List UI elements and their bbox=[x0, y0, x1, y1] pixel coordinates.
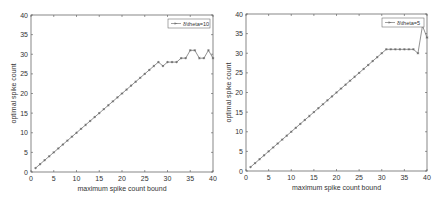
data-point bbox=[317, 107, 319, 109]
data-point bbox=[148, 69, 150, 71]
data-point bbox=[276, 142, 278, 144]
data-point bbox=[34, 167, 36, 169]
x-tick-label: 40 bbox=[209, 175, 217, 182]
data-point bbox=[254, 162, 256, 164]
data-point bbox=[212, 57, 214, 59]
data-point bbox=[385, 48, 387, 50]
x-axis-label: maximum spike count bound bbox=[292, 184, 381, 192]
data-point bbox=[326, 99, 328, 101]
data-point bbox=[272, 146, 274, 148]
data-point bbox=[290, 131, 292, 133]
data-point bbox=[189, 49, 191, 51]
data-point bbox=[362, 68, 364, 70]
data-point bbox=[84, 124, 86, 126]
data-point bbox=[358, 72, 360, 74]
data-point bbox=[134, 81, 136, 83]
y-tick-label: 30 bbox=[235, 50, 243, 57]
x-tick-label: 0 bbox=[244, 174, 248, 181]
data-point bbox=[157, 61, 159, 63]
y-tick-label: 0 bbox=[24, 169, 28, 176]
figure: 05101520253035400510152025303540maximum … bbox=[0, 0, 445, 202]
y-tick-label: 5 bbox=[24, 149, 28, 156]
data-point bbox=[107, 104, 109, 106]
x-axis-label: maximum spike count bound bbox=[77, 185, 166, 193]
x-tick-label: 30 bbox=[378, 174, 386, 181]
data-point bbox=[331, 95, 333, 97]
chart-left: 05101520253035400510152025303540maximum … bbox=[10, 12, 217, 194]
data-point bbox=[103, 108, 105, 110]
data-point bbox=[171, 61, 173, 63]
y-tick-label: 35 bbox=[235, 30, 243, 37]
data-point bbox=[89, 120, 91, 122]
data-point bbox=[207, 49, 209, 51]
data-point bbox=[98, 112, 100, 114]
data-point bbox=[43, 159, 45, 161]
y-tick-label: 5 bbox=[239, 148, 243, 155]
data-point bbox=[394, 48, 396, 50]
x-tick-label: 30 bbox=[164, 175, 172, 182]
y-tick-label: 10 bbox=[235, 128, 243, 135]
data-point bbox=[180, 57, 182, 59]
legend: δ\theta=5 bbox=[382, 18, 424, 27]
data-point bbox=[94, 116, 96, 118]
data-point bbox=[258, 158, 260, 160]
data-point bbox=[62, 143, 64, 145]
data-point bbox=[372, 60, 374, 62]
y-tick-label: 0 bbox=[239, 168, 243, 175]
x-tick-label: 15 bbox=[310, 174, 318, 181]
data-point bbox=[125, 88, 127, 90]
x-tick-label: 40 bbox=[423, 174, 431, 181]
x-tick-label: 10 bbox=[287, 174, 295, 181]
legend-label: δ\theta=5 bbox=[397, 20, 420, 26]
data-point bbox=[281, 138, 283, 140]
x-tick-label: 25 bbox=[141, 175, 149, 182]
data-point bbox=[408, 48, 410, 50]
x-tick-label: 15 bbox=[95, 175, 103, 182]
y-tick-label: 40 bbox=[20, 12, 28, 19]
y-tick-label: 25 bbox=[235, 69, 243, 76]
data-point bbox=[130, 84, 132, 86]
data-point bbox=[175, 61, 177, 63]
x-tick-label: 35 bbox=[186, 175, 194, 182]
y-axis-label: optimal spike count bbox=[225, 62, 233, 122]
data-point bbox=[286, 134, 288, 136]
data-point bbox=[198, 57, 200, 59]
data-point bbox=[349, 80, 351, 82]
x-tick-label: 5 bbox=[267, 174, 271, 181]
data-point bbox=[426, 36, 428, 38]
data-point bbox=[139, 77, 141, 79]
y-tick-label: 25 bbox=[20, 70, 28, 77]
data-point bbox=[412, 48, 414, 50]
x-tick-label: 20 bbox=[118, 175, 126, 182]
data-point bbox=[185, 57, 187, 59]
data-point bbox=[403, 48, 405, 50]
data-point bbox=[263, 154, 265, 156]
data-point bbox=[367, 64, 369, 66]
data-point bbox=[322, 103, 324, 105]
legend-label: δ\theta=10 bbox=[183, 21, 209, 27]
data-point bbox=[390, 48, 392, 50]
y-tick-label: 20 bbox=[235, 89, 243, 96]
data-point bbox=[121, 92, 123, 94]
data-point bbox=[71, 135, 73, 137]
data-point bbox=[80, 128, 82, 130]
data-point bbox=[376, 56, 378, 58]
data-point bbox=[57, 147, 59, 149]
data-point bbox=[340, 87, 342, 89]
data-point bbox=[153, 65, 155, 67]
data-point bbox=[75, 132, 77, 134]
data-point bbox=[308, 115, 310, 117]
y-tick-label: 30 bbox=[20, 51, 28, 58]
y-tick-label: 15 bbox=[20, 110, 28, 117]
data-point bbox=[399, 48, 401, 50]
data-point bbox=[417, 52, 419, 54]
x-tick-label: 5 bbox=[52, 175, 56, 182]
chart-right: 05101520253035400510152025303540maximum … bbox=[225, 11, 431, 193]
data-point bbox=[53, 151, 55, 153]
x-tick-label: 25 bbox=[355, 174, 363, 181]
data-point bbox=[194, 49, 196, 51]
x-tick-label: 35 bbox=[400, 174, 408, 181]
data-point bbox=[162, 65, 164, 67]
data-point bbox=[39, 163, 41, 165]
data-point bbox=[144, 73, 146, 75]
